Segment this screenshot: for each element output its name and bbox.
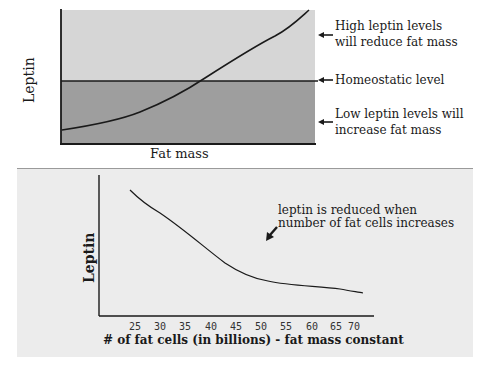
annotation-low-line2: increase fat mass [335, 123, 441, 138]
x-tick-70: 70 [348, 319, 360, 334]
x-tick-45: 45 [230, 319, 242, 334]
annotation-high-line1: High leptin levels [335, 19, 442, 34]
x-tick-55: 55 [280, 319, 292, 334]
annotation-homeostatic: Homeostatic level [335, 73, 444, 88]
figure-canvas [0, 0, 488, 367]
x-tick-30: 30 [154, 319, 166, 334]
lower-region [61, 81, 315, 143]
bottom-annotation-line2: number of fat cells increases [278, 216, 454, 231]
upper-region [61, 10, 315, 81]
arrow-low-icon [318, 119, 333, 125]
x-tick-50: 50 [255, 319, 267, 334]
x-tick-65: 65 [330, 319, 342, 334]
x-tick-40: 40 [205, 319, 217, 334]
x-tick-25: 25 [129, 319, 141, 334]
top-x-axis-label: Fat mass [150, 146, 209, 161]
bottom-x-axis-label: # of fat cells (in billions) - fat mass … [103, 333, 404, 348]
arrow-high-icon [318, 32, 333, 38]
arrow-homeostatic-icon [318, 77, 333, 83]
annotation-high-line2: will reduce fat mass [335, 35, 458, 50]
x-tick-60: 60 [306, 319, 318, 334]
top-y-axis-label: Leptin [22, 57, 37, 103]
annotation-low-line1: Low leptin levels will [335, 107, 464, 122]
x-tick-35: 35 [179, 319, 191, 334]
bottom-y-axis-label: Leptin [82, 232, 97, 283]
top-chart [60, 9, 333, 144]
